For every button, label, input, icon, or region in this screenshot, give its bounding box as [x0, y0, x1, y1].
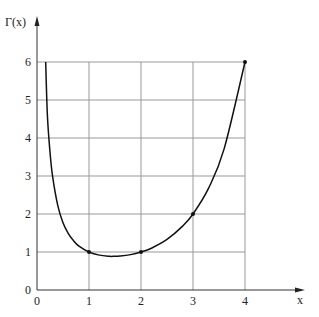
gamma-function-chart: Γ(x) x 012340123456	[0, 0, 319, 317]
y-tick-label: 0	[25, 283, 31, 297]
y-axis-arrow-icon	[35, 16, 40, 26]
data-point-marker	[191, 212, 195, 216]
data-point-marker	[139, 250, 143, 254]
x-tick-label: 3	[190, 294, 196, 308]
data-point-marker	[243, 60, 247, 64]
x-tick-label: 2	[138, 294, 144, 308]
x-tick-label: 4	[242, 294, 248, 308]
y-tick-label: 1	[25, 245, 31, 259]
y-axis-label: Γ(x)	[5, 15, 26, 29]
y-tick-label: 5	[25, 93, 31, 107]
x-tick-label: 0	[34, 294, 40, 308]
y-tick-label: 2	[25, 207, 31, 221]
x-axis-arrow-icon	[295, 288, 305, 293]
x-tick-label: 1	[86, 294, 92, 308]
marked-points	[87, 60, 247, 254]
y-tick-label: 6	[25, 55, 31, 69]
data-point-marker	[87, 250, 91, 254]
x-axis-label: x	[297, 293, 303, 307]
y-tick-label: 4	[25, 131, 31, 145]
axes: Γ(x) x	[5, 15, 305, 307]
y-tick-label: 3	[25, 169, 31, 183]
tick-labels: 012340123456	[25, 55, 248, 308]
gamma-curve	[46, 62, 245, 256]
